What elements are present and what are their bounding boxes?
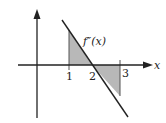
graph-canvas: f″(x) x 1 2 3 — [0, 0, 166, 123]
x-axis-label: x — [154, 59, 161, 72]
tick-label-1: 1 — [66, 70, 73, 83]
tick-label-3: 3 — [122, 67, 129, 80]
x-axis-arrow-icon — [143, 62, 153, 69]
function-label: f″(x) — [82, 35, 106, 48]
tick-label-2: 2 — [89, 70, 96, 83]
diagram-figure: f″(x) x 1 2 3 — [0, 0, 166, 123]
y-axis-arrow-icon — [34, 9, 41, 19]
